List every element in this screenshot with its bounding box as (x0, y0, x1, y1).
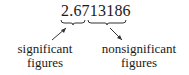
significant-brace (61, 20, 85, 25)
label-line: figures (10, 56, 80, 70)
label-line: nonsignificant (94, 42, 184, 56)
label-line: significant (10, 42, 80, 56)
label-line: figures (94, 56, 184, 70)
nonsignificant-figures-label: nonsignificant figures (94, 42, 184, 70)
nonsignificant-brace (88, 20, 126, 25)
significant-figures-label: significant figures (10, 42, 80, 70)
